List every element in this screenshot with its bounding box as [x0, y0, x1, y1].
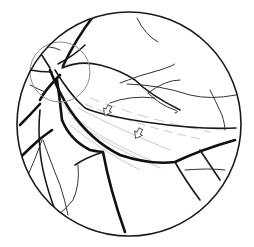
vessels [17, 14, 236, 232]
fundus-rim [17, 12, 241, 236]
fundus-drawing [0, 0, 254, 247]
fundus-svg [0, 0, 254, 247]
